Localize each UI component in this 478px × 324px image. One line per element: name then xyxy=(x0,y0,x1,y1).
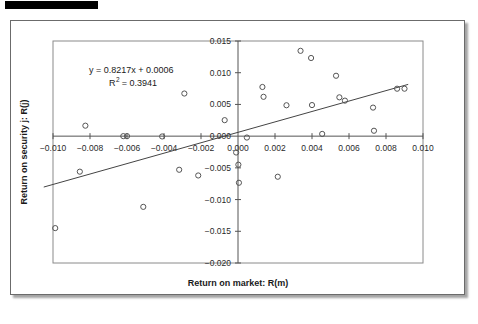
scatter-point xyxy=(284,103,289,108)
scatter-point xyxy=(275,174,280,179)
y-tick-label: 0.005 xyxy=(210,99,232,109)
x-tick-label: 0.004 xyxy=(301,143,323,153)
equation-text: y = 0.8217x + 0.0006 xyxy=(89,65,174,75)
y-tick-label: −0.005 xyxy=(205,163,232,173)
scatter-point xyxy=(337,95,342,100)
y-tick-label: −0.010 xyxy=(205,195,232,205)
y-tick-label: −0.020 xyxy=(205,258,232,268)
scatter-point xyxy=(261,94,266,99)
scatter-point xyxy=(77,169,82,174)
y-axis-title: Return on security j: R(j) xyxy=(19,99,29,204)
scatter-point xyxy=(182,91,187,96)
x-tick-label: 0.010 xyxy=(412,143,434,153)
scatter-point xyxy=(196,173,201,178)
scatter-point xyxy=(395,86,400,91)
x-tick-label: −0.004 xyxy=(151,143,178,153)
y-tick-label: 0.015 xyxy=(210,36,232,46)
scatter-point xyxy=(141,204,146,209)
y-tick-label: −0.015 xyxy=(205,226,232,236)
y-tick-label: 0.010 xyxy=(210,68,232,78)
scatter-point xyxy=(177,167,182,172)
x-tick-label: −0.010 xyxy=(40,143,67,153)
r-squared-value: = 0.3941 xyxy=(122,78,157,88)
scatter-point xyxy=(260,84,265,89)
scatter-point xyxy=(333,73,338,78)
scatter-point xyxy=(402,86,407,91)
scatter-chart-figure: −0.010−0.008−0.006−0.004−0.0020.0000.002… xyxy=(11,21,466,296)
scatter-point xyxy=(298,48,303,53)
r-squared-label: R xyxy=(109,78,116,88)
scatter-point xyxy=(222,118,227,123)
r-squared-exponent: 2 xyxy=(116,76,120,83)
x-tick-label: 0.006 xyxy=(338,143,360,153)
scatter-point xyxy=(83,123,88,128)
x-axis-title: Return on market: R(m) xyxy=(188,278,289,288)
scatter-point xyxy=(236,180,241,185)
regression-equation-annotation: y = 0.8217x + 0.0006 R 2 = 0.3941 xyxy=(89,65,174,88)
x-tick-label: −0.002 xyxy=(188,143,215,153)
scatter-point xyxy=(308,55,313,60)
x-tick-label: 0.002 xyxy=(264,143,286,153)
x-tick-label: 0.008 xyxy=(375,143,397,153)
scatter-point xyxy=(370,105,375,110)
figure-card: −0.010−0.008−0.006−0.004−0.0020.0000.002… xyxy=(10,20,465,295)
top-black-bar xyxy=(5,1,98,9)
chart-svg: −0.010−0.008−0.006−0.004−0.0020.0000.002… xyxy=(11,21,466,296)
scatter-point xyxy=(309,102,314,107)
x-tick-label: −0.008 xyxy=(77,143,104,153)
x-tick-label: −0.006 xyxy=(114,143,141,153)
scatter-point xyxy=(371,128,376,133)
